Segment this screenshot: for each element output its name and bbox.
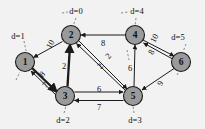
node-3-label: 3 xyxy=(63,91,68,101)
distance-label-node-1: d=1 xyxy=(11,31,24,41)
leader-node-1 xyxy=(24,41,26,51)
distance-label-node-6: d=5 xyxy=(171,32,184,42)
leader-node-3 xyxy=(64,106,66,113)
leader-node-4 xyxy=(135,18,136,26)
node-5-label: 5 xyxy=(131,91,136,101)
leader-node-2-left xyxy=(62,12,68,13)
weight-edge-5-to-4: 6 xyxy=(128,63,132,73)
graph-canvas: 1 2 3 4 5 6 d=1 d=0 d=2 d=4 d=3 d=5 10 8… xyxy=(0,0,205,129)
distance-label-node-2: d=0 xyxy=(69,6,82,16)
node-4-label: 4 xyxy=(133,30,138,40)
leader-node-5 xyxy=(133,106,134,113)
leader-weight-5-4 xyxy=(127,50,129,60)
weight-edge-6-to-5: 9 xyxy=(155,79,166,88)
weight-edge-4-to-2: 8 xyxy=(101,38,105,48)
weight-edge-3-to-5: 6 xyxy=(97,84,101,94)
edge-3-to-2 xyxy=(68,45,71,87)
distance-label-node-3: d=2 xyxy=(56,115,69,125)
leader-node-6 xyxy=(183,44,186,52)
node-2-label: 2 xyxy=(69,30,74,40)
leader-node-2 xyxy=(73,18,76,26)
weight-edge-5-to-3: 7 xyxy=(97,102,101,112)
leader-node-4-left xyxy=(121,12,128,13)
weight-edge-4-to-6: 10 xyxy=(148,32,161,44)
weight-edge-2-to-5: 2 xyxy=(103,51,113,61)
edge-2-to-5 xyxy=(79,41,127,89)
distance-label-node-5: d=3 xyxy=(128,115,141,125)
node-6-label: 6 xyxy=(179,57,184,67)
node-1-label: 1 xyxy=(23,57,28,67)
graph-diagram: 1 2 3 4 5 6 d=1 d=0 d=2 d=4 d=3 d=5 10 8… xyxy=(0,0,205,129)
weight-edge-3-to-2: 2 xyxy=(62,61,66,71)
edge-5-to-4 xyxy=(134,45,135,87)
distance-label-node-4: d=4 xyxy=(130,6,144,16)
leader-extra-1 xyxy=(16,72,20,80)
weight-edge-2-to-1: 10 xyxy=(44,38,57,50)
